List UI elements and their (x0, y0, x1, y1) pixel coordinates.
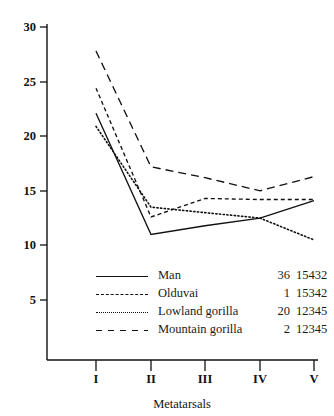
y-tick-label-25: 25 (24, 75, 37, 89)
legend-row: Man 36 15432 (96, 268, 328, 286)
x-tick-label-i: I (94, 372, 99, 386)
series-line-olduvai (96, 88, 314, 217)
x-tick-label-ii: II (146, 372, 156, 386)
series-line-mountain-gorilla (96, 51, 314, 191)
chart-legend: Man 36 15432 Olduvai 1 15342 Lowland gor… (96, 268, 328, 340)
legend-line-sample-solid-icon (96, 276, 148, 277)
legend-series-name: Olduvai (158, 286, 198, 301)
series-line-man (96, 113, 314, 234)
legend-series-code: 12345 (296, 304, 327, 319)
y-tick-label-20: 20 (24, 129, 37, 143)
legend-series-count: 36 (238, 268, 290, 283)
legend-series-count: 20 (238, 304, 290, 319)
x-axis-title: Metatarsals (153, 397, 211, 411)
legend-series-count: 1 (238, 286, 290, 301)
y-tick-label-10: 10 (24, 238, 37, 252)
legend-line-sample-longdash-icon (96, 330, 148, 331)
x-axis-ticks (96, 360, 314, 371)
line-chart-plot: 30 25 20 15 10 5 I II III IV V Metatarsa… (0, 0, 334, 416)
legend-row: Mountain gorilla 2 12345 (96, 322, 328, 340)
legend-row: Lowland gorilla 20 12345 (96, 304, 328, 322)
legend-line-sample-dashed-icon (96, 294, 148, 295)
legend-series-name: Man (158, 268, 181, 283)
legend-series-count: 2 (238, 322, 290, 337)
y-tick-label-5: 5 (30, 293, 36, 307)
y-tick-label-30: 30 (24, 20, 37, 34)
legend-line-sample-dotted-icon (96, 312, 148, 313)
x-tick-label-iv: IV (253, 372, 267, 386)
y-axis-ticks (40, 27, 47, 300)
x-tick-label-v: V (309, 372, 318, 386)
legend-series-name: Mountain gorilla (158, 322, 242, 337)
series-lines (96, 51, 314, 240)
series-line-lowland-gorilla (96, 126, 314, 240)
legend-series-code: 15342 (296, 286, 327, 301)
y-tick-label-15: 15 (24, 184, 37, 198)
legend-series-name: Lowland gorilla (158, 304, 238, 319)
x-tick-label-iii: III (198, 372, 213, 386)
legend-row: Olduvai 1 15342 (96, 286, 328, 304)
chart-container: 30 25 20 15 10 5 I II III IV V Metatarsa… (0, 0, 334, 416)
legend-series-code: 15432 (296, 268, 327, 283)
legend-series-code: 12345 (296, 322, 327, 337)
